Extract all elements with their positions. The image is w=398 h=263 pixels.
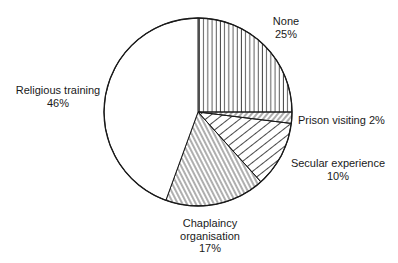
label-religious-name: Religious training bbox=[8, 84, 108, 97]
label-secular-name: Secular experience bbox=[286, 157, 390, 170]
label-chaplaincy-name2: organisation bbox=[170, 230, 250, 243]
label-secular-experience: Secular experience 10% bbox=[286, 157, 390, 182]
label-none: None 25% bbox=[266, 15, 306, 40]
label-prison-text: Prison visiting 2% bbox=[298, 114, 385, 127]
label-religious-pct: 46% bbox=[8, 97, 108, 110]
label-none-pct: 25% bbox=[266, 28, 306, 41]
label-chaplaincy-pct: 17% bbox=[170, 242, 250, 255]
label-secular-pct: 10% bbox=[286, 170, 390, 183]
label-none-name: None bbox=[266, 15, 306, 28]
label-religious-training: Religious training 46% bbox=[8, 84, 108, 109]
label-prison-visiting: Prison visiting 2% bbox=[298, 114, 385, 127]
label-chaplaincy-organisation: Chaplaincy organisation 17% bbox=[170, 217, 250, 255]
label-chaplaincy-name1: Chaplaincy bbox=[170, 217, 250, 230]
